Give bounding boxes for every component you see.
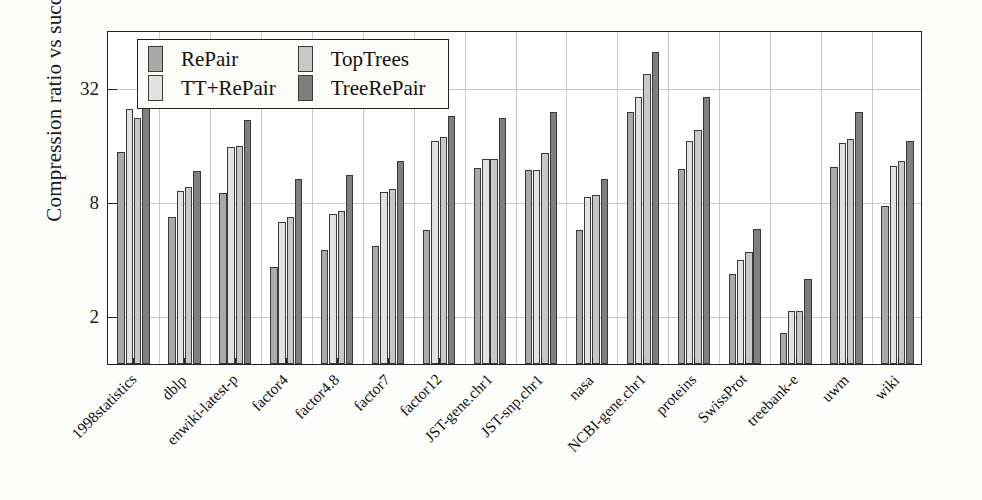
bar — [729, 274, 736, 364]
bar — [295, 179, 302, 364]
y-tick-label: 2 — [90, 306, 109, 328]
bar — [541, 153, 548, 364]
bar — [652, 52, 659, 364]
bar — [270, 267, 277, 364]
bar — [117, 152, 124, 364]
x-tick-mark — [337, 358, 338, 364]
bar — [499, 118, 506, 364]
y-tick-label: 8 — [90, 192, 109, 214]
x-tick-label: dblp — [158, 371, 190, 403]
x-tick-mark — [643, 358, 644, 364]
x-tick-mark — [592, 358, 593, 364]
plot-area: 2832 RePair TopTrees TT+RePair TreeRePai… — [107, 31, 922, 365]
x-tick-mark — [184, 358, 185, 364]
x-tick-label: 1998statistics — [68, 370, 140, 442]
x-tick-mark — [286, 358, 287, 364]
bar — [236, 146, 243, 364]
bar — [227, 147, 234, 364]
bar — [737, 260, 744, 364]
chart-figure: Compression ratio vs succinct 2832 RePai… — [0, 0, 982, 500]
x-tick-mark — [439, 358, 440, 364]
bar — [839, 143, 846, 364]
x-tick-label: factor4.8 — [291, 371, 343, 423]
y-tick-label: 32 — [80, 78, 108, 100]
x-tick-mark — [796, 358, 797, 364]
bar — [898, 161, 905, 364]
bar — [474, 168, 481, 364]
x-tick-mark — [490, 358, 491, 364]
x-tick-mark — [898, 358, 899, 364]
bar — [321, 250, 328, 364]
bar — [219, 193, 226, 364]
bar — [244, 120, 251, 364]
bar — [753, 229, 760, 364]
bar — [423, 230, 430, 364]
bar — [287, 217, 294, 364]
x-tick-mark — [541, 358, 542, 364]
x-tick-label: factor12 — [396, 371, 445, 420]
bar — [177, 191, 184, 364]
bar — [804, 279, 811, 364]
bar — [601, 179, 608, 364]
bar — [278, 222, 285, 364]
x-tick-label: uwm — [818, 371, 853, 406]
bar — [185, 187, 192, 364]
legend-swatch-treerepair — [298, 75, 313, 101]
bar — [389, 189, 396, 364]
bar — [694, 130, 701, 364]
bar — [168, 217, 175, 364]
legend-label-toptrees: TopTrees — [325, 47, 436, 72]
x-tick-mark — [235, 358, 236, 364]
bar — [142, 97, 149, 365]
bar — [796, 311, 803, 364]
x-tick-mark — [847, 358, 848, 364]
bar — [193, 171, 200, 364]
bar — [855, 112, 862, 364]
legend-label-repair: RePair — [175, 47, 286, 72]
bar — [525, 170, 532, 364]
bar — [431, 141, 438, 364]
bar — [592, 195, 599, 364]
x-tick-mark — [745, 358, 746, 364]
bar — [448, 116, 455, 364]
bar — [627, 112, 634, 364]
bar — [372, 246, 379, 364]
bar — [703, 97, 710, 365]
bar — [440, 137, 447, 364]
x-tick-mark — [388, 358, 389, 364]
bar — [780, 333, 787, 364]
bar — [126, 109, 133, 364]
bar — [881, 206, 888, 364]
bar — [346, 175, 353, 364]
legend-label-ttrepair: TT+RePair — [175, 76, 286, 101]
bar — [134, 118, 141, 364]
bar — [380, 192, 387, 364]
legend-swatch-ttrepair — [148, 75, 163, 101]
x-tick-label: factor4 — [248, 371, 292, 415]
legend-swatch-repair — [148, 46, 163, 72]
x-tick-label: wiki — [871, 371, 903, 403]
x-tick-mark — [133, 358, 134, 364]
bar — [584, 197, 591, 364]
x-tick-label: treebank-e — [743, 370, 802, 429]
x-tick-mark — [694, 358, 695, 364]
bar — [329, 214, 336, 364]
bar — [533, 170, 540, 364]
x-tick-label: factor7 — [350, 371, 394, 415]
bar — [906, 141, 913, 364]
bar — [490, 159, 497, 364]
x-tick-label: proteins — [652, 371, 700, 419]
bar — [482, 159, 489, 364]
bar — [678, 169, 685, 364]
legend-label-treerepair: TreeRePair — [325, 76, 436, 101]
bar — [338, 211, 345, 364]
bar — [788, 311, 795, 364]
bar — [643, 74, 650, 364]
bar — [890, 166, 897, 364]
x-tick-label: SwissProt — [694, 371, 751, 428]
bar — [686, 141, 693, 364]
bar — [830, 167, 837, 364]
bar — [550, 112, 557, 364]
bar — [397, 161, 404, 364]
bar — [847, 139, 854, 364]
